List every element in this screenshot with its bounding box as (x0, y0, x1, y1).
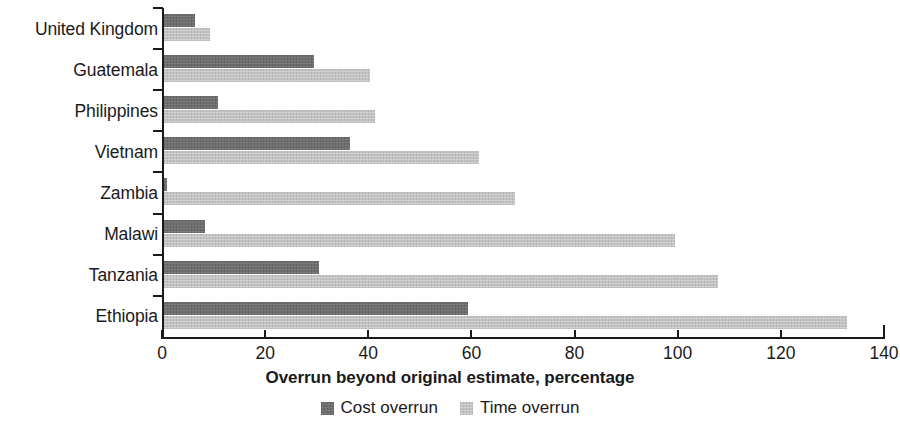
category-label: Tanzania (89, 265, 158, 286)
category-label: Vietnam (95, 141, 158, 162)
x-axis-tick (470, 330, 472, 339)
category-label: United Kingdom (35, 18, 158, 39)
x-axis-tick-label: 100 (663, 343, 692, 364)
bar-cost-overrun (164, 55, 314, 68)
category-label: Guatemala (73, 59, 158, 80)
bar-cost-overrun (164, 178, 167, 191)
x-axis-tick-label: 140 (869, 343, 898, 364)
x-axis-tick-label: 20 (255, 343, 274, 364)
x-axis-tick-label: 80 (565, 343, 584, 364)
bar-cost-overrun (164, 96, 218, 109)
legend-label-cost-overrun: Cost overrun (341, 398, 438, 418)
legend-label-time-overrun: Time overrun (480, 398, 580, 418)
legend-item-time-overrun: Time overrun (460, 398, 580, 418)
x-axis-tick (883, 330, 885, 339)
category-label: Zambia (100, 182, 158, 203)
x-axis-tick (161, 330, 163, 339)
chart-row: Philippines (0, 90, 900, 131)
y-axis-tick (153, 171, 163, 173)
x-axis-tick-label: 120 (766, 343, 795, 364)
bar-time-overrun (164, 110, 375, 123)
x-axis-tick-label: 60 (462, 343, 481, 364)
chart-row: Vietnam (0, 131, 900, 172)
chart-row: United Kingdom (0, 8, 900, 49)
bar-cost-overrun (164, 14, 195, 27)
chart-row: Ethiopia (0, 296, 900, 337)
x-axis-tick (780, 330, 782, 339)
bar-time-overrun (164, 151, 479, 164)
x-axis-tick-label: 0 (157, 343, 167, 364)
bar-chart: United KingdomGuatemalaPhilippinesVietna… (0, 0, 900, 434)
x-axis-line (162, 337, 885, 339)
bar-cost-overrun (164, 137, 350, 150)
chart-row: Tanzania (0, 255, 900, 296)
y-axis-tick (153, 213, 163, 215)
bar-time-overrun (164, 234, 675, 247)
cost-overrun-swatch (321, 402, 334, 415)
category-label: Philippines (74, 100, 158, 121)
x-axis-tick (574, 330, 576, 339)
y-axis-tick (153, 89, 163, 91)
x-axis-tick (264, 330, 266, 339)
bar-cost-overrun (164, 302, 468, 315)
time-overrun-swatch (460, 402, 473, 415)
bar-time-overrun (164, 69, 370, 82)
bar-time-overrun (164, 275, 718, 288)
x-axis-title: Overrun beyond original estimate, percen… (0, 368, 900, 388)
x-axis-tick (677, 330, 679, 339)
bar-cost-overrun (164, 261, 319, 274)
x-axis-tick-label: 40 (359, 343, 378, 364)
legend-item-cost-overrun: Cost overrun (321, 398, 438, 418)
bar-time-overrun (164, 316, 847, 329)
y-axis-tick (153, 7, 163, 9)
category-label: Ethiopia (96, 306, 158, 327)
chart-row: Guatemala (0, 49, 900, 90)
x-axis-tick (367, 330, 369, 339)
y-axis-tick (153, 48, 163, 50)
bar-time-overrun (164, 28, 210, 41)
chart-row: Malawi (0, 214, 900, 255)
bar-time-overrun (164, 192, 515, 205)
chart-legend: Cost overrun Time overrun (0, 398, 900, 418)
bar-cost-overrun (164, 220, 205, 233)
chart-row: Zambia (0, 172, 900, 213)
y-axis-tick (153, 130, 163, 132)
category-label: Malawi (104, 224, 158, 245)
y-axis-tick (153, 254, 163, 256)
y-axis-tick (153, 295, 163, 297)
